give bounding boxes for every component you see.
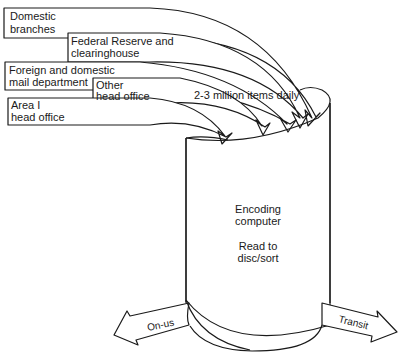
check-processing-diagram: Domestic branches Federal Reserve and cl…	[0, 0, 403, 361]
source-label-line: Area I	[11, 99, 40, 111]
source-label-line: Foreign and domestic	[9, 64, 115, 76]
source-domestic-branches: Domestic branches	[10, 10, 56, 35]
source-label-line: head office	[96, 90, 150, 102]
volume-label: 2-3 million items daily	[194, 89, 300, 101]
source-label-line: clearinghouse	[71, 47, 140, 59]
processor-subtitle-line: Read to	[239, 240, 278, 252]
source-label-line: mail department	[9, 76, 88, 88]
processor-subtitle-line: disc/sort	[238, 252, 279, 264]
source-label-line: head office	[11, 111, 65, 123]
source-label-line: Federal Reserve and	[71, 35, 174, 47]
processor-title-line: computer	[235, 215, 281, 227]
processor-title-line: Encoding	[235, 203, 281, 215]
source-label-line: branches	[10, 23, 56, 35]
source-label-line: Domestic	[10, 10, 56, 22]
